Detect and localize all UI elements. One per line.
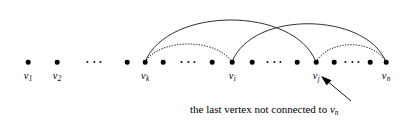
ellipsis-dot [280,61,282,63]
vertex-label-vk: vk [141,71,149,82]
ellipsis-dot [93,61,95,63]
ellipsis-dot [266,61,268,63]
annotation-text: the last vertex not connected to [190,103,330,115]
ellipsis-gap-j-n [344,61,359,63]
vertex-dot-a7 [368,60,373,65]
vertex-label-subscript: n [387,75,391,83]
arc-vi-vn [232,24,386,62]
ellipsis-dot [100,61,102,63]
vertex-dot-v2 [55,60,60,65]
ellipsis-dot [180,61,182,63]
dotted-arcs [145,44,386,62]
ellipsis-dot [344,61,346,63]
ellipsis-dot [194,61,196,63]
vertex-label-subscript: j [318,75,320,83]
vertex-label-v2: v2 [53,71,61,82]
vertex-dot-a6 [332,60,337,65]
vertex-dot-v1 [26,60,31,65]
vertex-label-symbol: v [313,70,318,81]
vertex-label-symbol: v [141,70,146,81]
vertex-dot-a4 [250,60,255,65]
ellipsis-gap-k-i [180,61,195,63]
ellipsis-dot [187,61,189,63]
ellipsis-gap-left [86,61,101,63]
solid-arcs [145,20,386,62]
vertex-label-vi: vi [229,71,236,82]
ellipsis-gap-i-j [266,61,281,63]
arrow-shaft [326,80,351,101]
vertex-dot-a3 [210,60,215,65]
ellipsis-dot [358,61,360,63]
arc-vk-vi [145,44,232,62]
annotation-math-subscript: n [335,108,339,117]
annotation-caption: the last vertex not connected to vn [190,104,339,115]
vertex-label-v1: v1 [24,71,32,82]
vertex-dot-vj [314,60,319,65]
vertex-label-subscript: 1 [29,75,33,83]
vertex-dot-a2 [161,60,166,65]
vertex-label-symbol: v [382,70,387,81]
vertex-dot-vn [384,60,389,65]
vertex-label-vn: vn [382,71,390,82]
annotation-arrow [321,76,351,101]
vertex-label-symbol: v [229,70,234,81]
vertex-dot-a5 [295,60,300,65]
vertex-label-subscript: 2 [58,75,62,83]
vertex-dot-vk [143,60,148,65]
vertex-label-subscript: k [146,75,149,83]
ellipsis-dot [351,61,353,63]
arc-vk-vj [145,20,316,62]
vertex-label-symbol: v [24,70,29,81]
vertex-dot-a1 [125,60,130,65]
vertex-label-symbol: v [53,70,58,81]
ellipsis-dot [273,61,275,63]
arc-vj-vn [316,45,386,62]
vertex-dot-vi [230,60,235,65]
vertex-path-diagram: v1v2vkvivjvn the last vertex not connect… [0,0,404,126]
annotation-math: vn [330,103,339,115]
vertex-label-vj: vj [313,71,320,82]
ellipsis-dot [86,61,88,63]
vertex-label-subscript: i [234,75,236,83]
